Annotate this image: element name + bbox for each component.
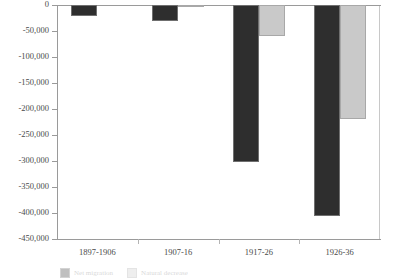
y-axis-tick-label: -300,000 (19, 154, 49, 167)
y-axis-tick: -450,000 (0, 239, 57, 240)
y-axis-tick: -300,000 (0, 161, 57, 162)
y-axis-tick-label: -150,000 (19, 76, 49, 89)
legend-label: Natural decrease (141, 269, 188, 277)
bar-1907-16-series-1 (178, 5, 204, 7)
y-axis-tick: -50,000 (0, 31, 57, 32)
y-axis-tick-mark (52, 109, 57, 110)
y-axis-tick-mark (52, 83, 57, 84)
bar-1897-1906-series-0 (71, 5, 97, 16)
x-axis-category-label: 1907-16 (138, 246, 219, 258)
y-axis-tick-label: -200,000 (19, 102, 49, 115)
x-axis-separator (299, 239, 300, 244)
legend-swatch (60, 268, 70, 278)
legend-entry: Natural decrease (127, 268, 188, 278)
y-axis-tick-label: -350,000 (19, 180, 49, 193)
y-axis-tick-mark (52, 187, 57, 188)
bar-1926-36-series-0 (314, 5, 340, 216)
x-axis-separator (138, 239, 139, 244)
bar-1907-16-series-0 (152, 5, 178, 21)
y-axis-tick-label: -400,000 (19, 206, 49, 219)
y-axis-tick-mark (52, 135, 57, 136)
y-axis-tick-label: -100,000 (19, 50, 49, 63)
y-axis-tick-mark (52, 5, 57, 6)
y-axis-tick: -200,000 (0, 109, 57, 110)
legend-swatch (127, 268, 137, 278)
y-axis-tick: -250,000 (0, 135, 57, 136)
y-axis-tick-label: 0 (45, 0, 49, 11)
x-axis-separator (219, 239, 220, 244)
y-axis-tick: -400,000 (0, 213, 57, 214)
bar-1917-26-series-1 (259, 5, 285, 36)
y-axis-tick: -150,000 (0, 83, 57, 84)
y-axis-tick-mark (52, 31, 57, 32)
bar-1917-26-series-0 (233, 5, 259, 162)
y-axis-tick-mark (52, 239, 57, 240)
y-axis-tick-mark (52, 213, 57, 214)
chart-legend: Net migrationNatural decrease (60, 268, 188, 278)
y-axis-tick-mark (52, 161, 57, 162)
y-axis-tick: -100,000 (0, 57, 57, 58)
y-axis-tick-mark (52, 57, 57, 58)
bar-1926-36-series-1 (340, 5, 366, 119)
x-axis-category-label: 1897-1906 (57, 246, 138, 258)
y-axis-tick-label: -450,000 (19, 232, 49, 245)
y-axis-tick-label: -250,000 (19, 128, 49, 141)
y-axis-tick: 0 (0, 5, 57, 6)
x-axis-category-label: 1917-26 (219, 246, 300, 258)
y-axis-tick-label: -50,000 (23, 24, 49, 37)
legend-label: Net migration (74, 269, 113, 277)
legend-entry: Net migration (60, 268, 113, 278)
y-axis-tick: -350,000 (0, 187, 57, 188)
x-axis-category-label: 1926-36 (299, 246, 380, 258)
